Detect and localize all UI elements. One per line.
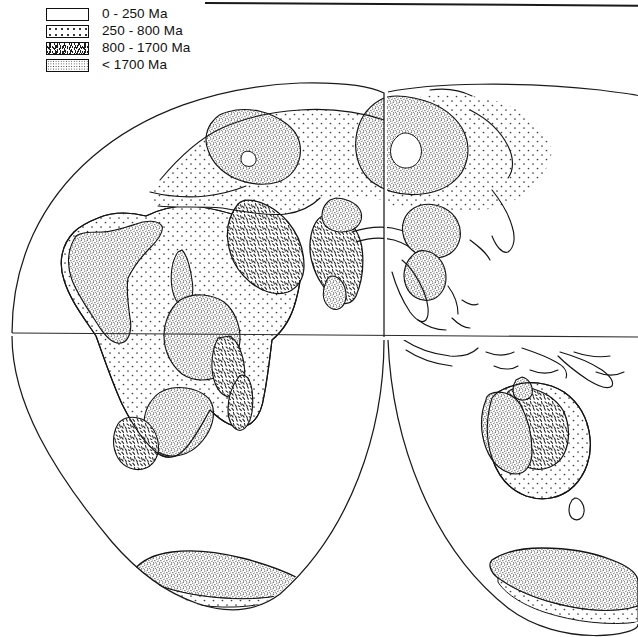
map-area [0, 0, 638, 637]
legend-label-0: 0 - 250 Ma [102, 7, 168, 21]
region-siberian-interior-basin [391, 133, 422, 168]
region-baltic-interior-basin [241, 151, 256, 166]
legend-label-2: 800 - 1700 Ma [102, 41, 190, 55]
world-map-svg [0, 0, 638, 637]
legend-item-3: < 1700 Ma [46, 57, 216, 73]
legend-item-1: 250 - 800 Ma [46, 23, 216, 39]
figure-canvas: 0 - 250 Ma 250 - 800 Ma 800 - 1700 Ma < … [0, 0, 638, 637]
legend-item-2: 800 - 1700 Ma [46, 40, 216, 56]
legend: 0 - 250 Ma 250 - 800 Ma 800 - 1700 Ma < … [46, 6, 216, 74]
legend-swatch-stipple [46, 59, 89, 72]
legend-label-3: < 1700 Ma [102, 58, 167, 72]
legend-swatch-dash [46, 42, 89, 55]
legend-item-0: 0 - 250 Ma [46, 6, 216, 22]
legend-swatch-dots [46, 25, 89, 38]
legend-swatch-blank [46, 8, 89, 21]
legend-label-1: 250 - 800 Ma [102, 24, 183, 38]
